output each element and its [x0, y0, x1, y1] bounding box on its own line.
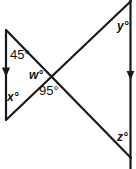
angle-label-95: 95°	[39, 84, 59, 97]
angle-label-x: x°	[7, 91, 18, 103]
geometry-diagram-svg	[0, 0, 136, 169]
angle-label-y: y°	[117, 20, 128, 32]
angle-label-w: w°	[29, 69, 43, 81]
angle-label-z: z°	[117, 131, 128, 143]
right-arrowhead-icon	[127, 71, 135, 80]
left-arrowhead-icon	[2, 68, 10, 78]
geometry-figure: 45° x° w° 95° y° z°	[0, 0, 136, 169]
angle-label-45: 45°	[10, 48, 30, 61]
